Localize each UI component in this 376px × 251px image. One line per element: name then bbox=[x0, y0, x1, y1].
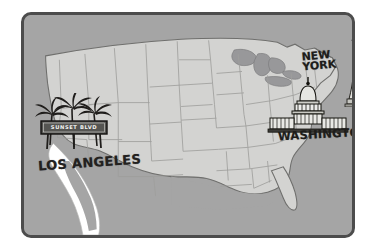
los-angeles-label: LOS ANGELES bbox=[38, 151, 142, 173]
map-frame: SUNSET BLVD LOS ANGELES bbox=[21, 12, 355, 238]
sunset-blvd-sign-text: SUNSET BLVD bbox=[46, 124, 102, 130]
new-york-label-line2: YORK bbox=[302, 60, 337, 73]
marker-new-york[interactable]: NEW YORK bbox=[300, 33, 355, 113]
statue-of-liberty-icon bbox=[334, 33, 355, 107]
marker-los-angeles[interactable]: SUNSET BLVD LOS ANGELES bbox=[32, 93, 142, 193]
new-york-label: NEW YORK bbox=[301, 50, 337, 73]
map-illustration: SUNSET BLVD LOS ANGELES bbox=[0, 0, 376, 251]
palm-fronds bbox=[35, 93, 112, 118]
palm-tree-icon bbox=[32, 93, 118, 151]
